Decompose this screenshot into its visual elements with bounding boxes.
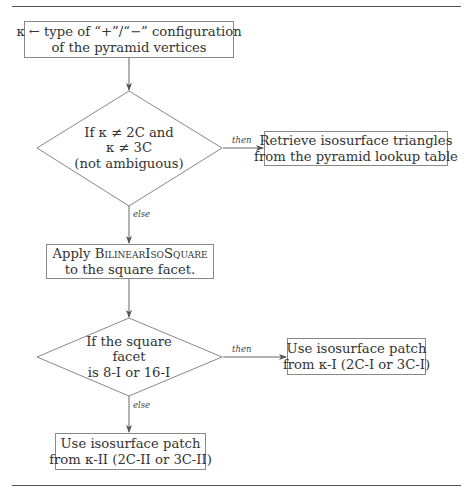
start-box: κ ← type of “+”/“−” configuration of the… <box>24 21 234 58</box>
retrieve-text-line-1: Retrieve isosurface triangles <box>260 133 453 149</box>
start-text-line-2: of the pyramid vertices <box>51 40 206 56</box>
retrieve-text-line-2: from the pyramid lookup table <box>254 149 458 165</box>
decision2-then-label: then <box>232 344 251 354</box>
decision1-text: If κ ≠ 2C and κ ≠ 3C (not ambiguous) <box>69 123 189 173</box>
patch2-text-line-2: from κ-II (2C-II or 3C-II) <box>49 452 212 468</box>
decision2-text-line-3: is 8-I or 16-I <box>88 365 170 381</box>
decision1-else-label: else <box>133 209 150 219</box>
decision1-text-line-1: If κ ≠ 2C and <box>84 125 173 141</box>
decision2-text-line-2: facet <box>112 349 145 365</box>
decision1-text-line-2: κ ≠ 3C <box>106 140 152 156</box>
decision2-text-line-1: If the square <box>86 334 172 350</box>
patch1-text-line-2: from κ-I (2C-I or 3C-I) <box>283 357 430 373</box>
bottom-rule <box>12 485 461 486</box>
retrieve-box: Retrieve isosurface triangles from the p… <box>264 131 448 166</box>
apply-prefix: Apply <box>52 246 94 261</box>
patch1-box: Use isosurface patch from κ-I (2C-I or 3… <box>287 338 426 375</box>
patch1-text-line-1: Use isosurface patch <box>287 341 427 357</box>
apply-box: Apply BilinearIsoSquare to the square fa… <box>46 244 214 279</box>
patch2-box: Use isosurface patch from κ-II (2C-II or… <box>55 433 206 470</box>
decision1-text-line-3: (not ambiguous) <box>74 156 183 172</box>
apply-text-line-2: to the square facet. <box>65 262 196 278</box>
apply-text-line-1: Apply BilinearIsoSquare <box>52 246 207 262</box>
decision2-else-label: else <box>133 400 150 410</box>
patch2-text-line-1: Use isosurface patch <box>61 436 201 452</box>
start-text-line-1: κ ← type of “+”/“−” configuration <box>16 24 241 40</box>
apply-algorithm-name: BilinearIsoSquare <box>95 246 208 261</box>
decision1-then-label: then <box>232 135 251 145</box>
decision2-text: If the square facet is 8-I or 16-I <box>69 332 189 382</box>
